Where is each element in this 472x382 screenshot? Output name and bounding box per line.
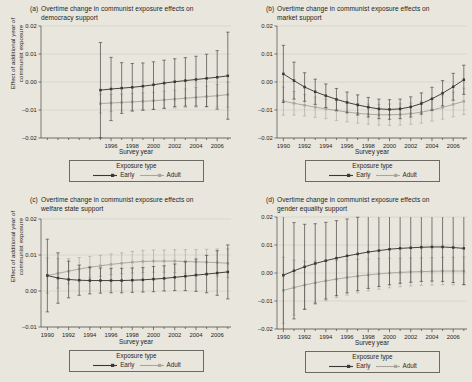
data-point-marker — [67, 278, 70, 281]
panel-d-legend-entry-early[interactable]: Early — [328, 362, 370, 370]
panel-b: (b)Overtime change in communist exposure… — [236, 0, 472, 191]
panel-c: (c)Overtime change in communist exposure… — [0, 191, 236, 382]
data-point-marker — [216, 76, 219, 79]
data-point-marker — [163, 260, 166, 263]
data-point-marker — [399, 108, 402, 111]
panel-c-label: (c) — [30, 195, 41, 204]
y-tick-label: –0.01 — [258, 107, 273, 113]
data-point-marker — [452, 103, 455, 106]
panel-b-title-line1: Overtime change in communist exposure ef… — [277, 5, 430, 12]
adult-line-swatch-icon — [139, 362, 165, 369]
data-point-marker — [142, 279, 145, 282]
data-point-marker — [420, 246, 423, 249]
data-point-marker — [335, 257, 338, 260]
panel-b-title-line2: market support — [277, 13, 471, 22]
data-point-marker — [431, 246, 434, 249]
y-tick-label: 0.01 — [25, 252, 36, 258]
y-tick-label: 0.00 — [261, 270, 273, 276]
panel-a-plot-area: 0.020.010.00–0.01–0.02199619982000200220… — [41, 26, 231, 138]
panel-c-legend-entry-adult[interactable]: Adult — [139, 361, 181, 369]
data-point-marker — [184, 79, 187, 82]
panel-a-title-line2: democracy support — [41, 13, 235, 22]
panel-c-ylabel-line1: Effect of additional year of — [9, 211, 16, 282]
series-line — [47, 272, 227, 281]
panel-c-legend-entry-early[interactable]: Early — [92, 361, 134, 369]
series-early — [46, 239, 230, 312]
data-point-marker — [441, 106, 444, 109]
data-point-marker — [120, 87, 123, 90]
panel-a: (a)Overtime change in communist exposure… — [0, 0, 236, 191]
panel-b-title: (b)Overtime change in communist exposure… — [266, 4, 471, 22]
data-point-marker — [367, 251, 370, 254]
data-point-marker — [110, 88, 113, 91]
data-point-marker — [325, 259, 328, 262]
panel-b-legend-entry-early[interactable]: Early — [328, 171, 370, 179]
data-point-marker — [99, 89, 102, 92]
panel-c-plot-area: 0.020.010.00–0.0119901992199419961998200… — [41, 219, 231, 327]
data-point-marker — [184, 275, 187, 278]
data-point-marker — [152, 278, 155, 281]
data-point-marker — [205, 77, 208, 80]
panel-b-legend-label-adult: Adult — [403, 171, 417, 179]
panel-a-title-line1: Overtime change in communist exposure ef… — [41, 5, 194, 12]
y-tick-label: 0.01 — [261, 242, 272, 248]
data-point-marker — [356, 104, 359, 107]
data-point-marker — [99, 265, 102, 268]
panel-a-legend-entry-early[interactable]: Early — [92, 171, 134, 179]
panel-a-ylabel-line1: Effect of additional year of — [9, 18, 16, 89]
panel-a-xlabel: Survey year — [41, 148, 231, 155]
panel-a-ylabel-line2: communist exposure — [17, 25, 24, 82]
panel-d-label: (d) — [266, 195, 277, 204]
panel-d-title-line2: gender equality support — [277, 204, 471, 213]
panel-d-title-line1: Overtime change in communist exposure ef… — [277, 196, 430, 203]
panel-a-legend-entry-adult[interactable]: Adult — [139, 171, 181, 179]
y-tick-label: 0.02 — [25, 216, 36, 222]
data-point-marker — [452, 86, 455, 89]
data-point-marker — [378, 108, 381, 111]
data-point-marker — [314, 91, 317, 94]
panel-c-legend-label-early: Early — [120, 361, 134, 369]
panel-b-plot-area: 0.020.010.00–0.01–0.02199019921994199619… — [277, 26, 467, 138]
early-line-swatch-icon — [92, 172, 118, 179]
panel-b-label: (b) — [266, 4, 277, 13]
y-tick-label: 0.01 — [25, 51, 36, 57]
data-point-marker — [441, 246, 444, 249]
series-adult — [282, 257, 466, 323]
panel-d-legend-entry-adult[interactable]: Adult — [375, 362, 417, 370]
data-point-marker — [120, 262, 123, 265]
data-point-marker — [378, 249, 381, 252]
data-point-marker — [216, 272, 219, 275]
data-point-marker — [142, 85, 145, 88]
data-point-marker — [420, 102, 423, 105]
panel-d-legend-label-adult: Adult — [403, 362, 417, 370]
panel-b-legend-entry-adult[interactable]: Adult — [375, 171, 417, 179]
panel-a-legend-label-adult: Adult — [167, 171, 181, 179]
data-point-marker — [110, 279, 113, 282]
figure-2x2-panel-grid: (a)Overtime change in communist exposure… — [0, 0, 472, 382]
panel-d-legend: Exposure type Early Adult — [305, 351, 440, 373]
data-point-marker — [152, 260, 155, 263]
data-point-marker — [173, 80, 176, 83]
panel-d: (d)Overtime change in communist exposure… — [236, 191, 472, 382]
panel-a-label: (a) — [30, 4, 41, 13]
panel-b-legend-title: Exposure type — [306, 162, 439, 170]
data-point-marker — [314, 262, 317, 265]
data-point-marker — [399, 247, 402, 250]
data-point-marker — [325, 108, 328, 111]
series-line — [283, 271, 463, 290]
data-point-marker — [131, 261, 134, 264]
data-point-marker — [205, 273, 208, 276]
data-point-marker — [46, 274, 49, 277]
panel-c-title-line2: welfare state support — [41, 204, 235, 213]
data-point-marker — [282, 274, 285, 277]
panel-d-xlabel: Survey year — [277, 339, 467, 346]
data-point-marker — [303, 104, 306, 107]
panel-a-legend: Exposure type Early Adult — [69, 160, 204, 182]
data-point-marker — [431, 98, 434, 101]
data-point-marker — [57, 277, 60, 280]
panel-a-ylabel: Effect of additional year of communist e… — [9, 0, 24, 112]
y-tick-label: –0.01 — [258, 298, 273, 304]
data-point-marker — [293, 79, 296, 82]
early-line-swatch-icon — [328, 172, 354, 179]
data-point-marker — [409, 106, 412, 109]
